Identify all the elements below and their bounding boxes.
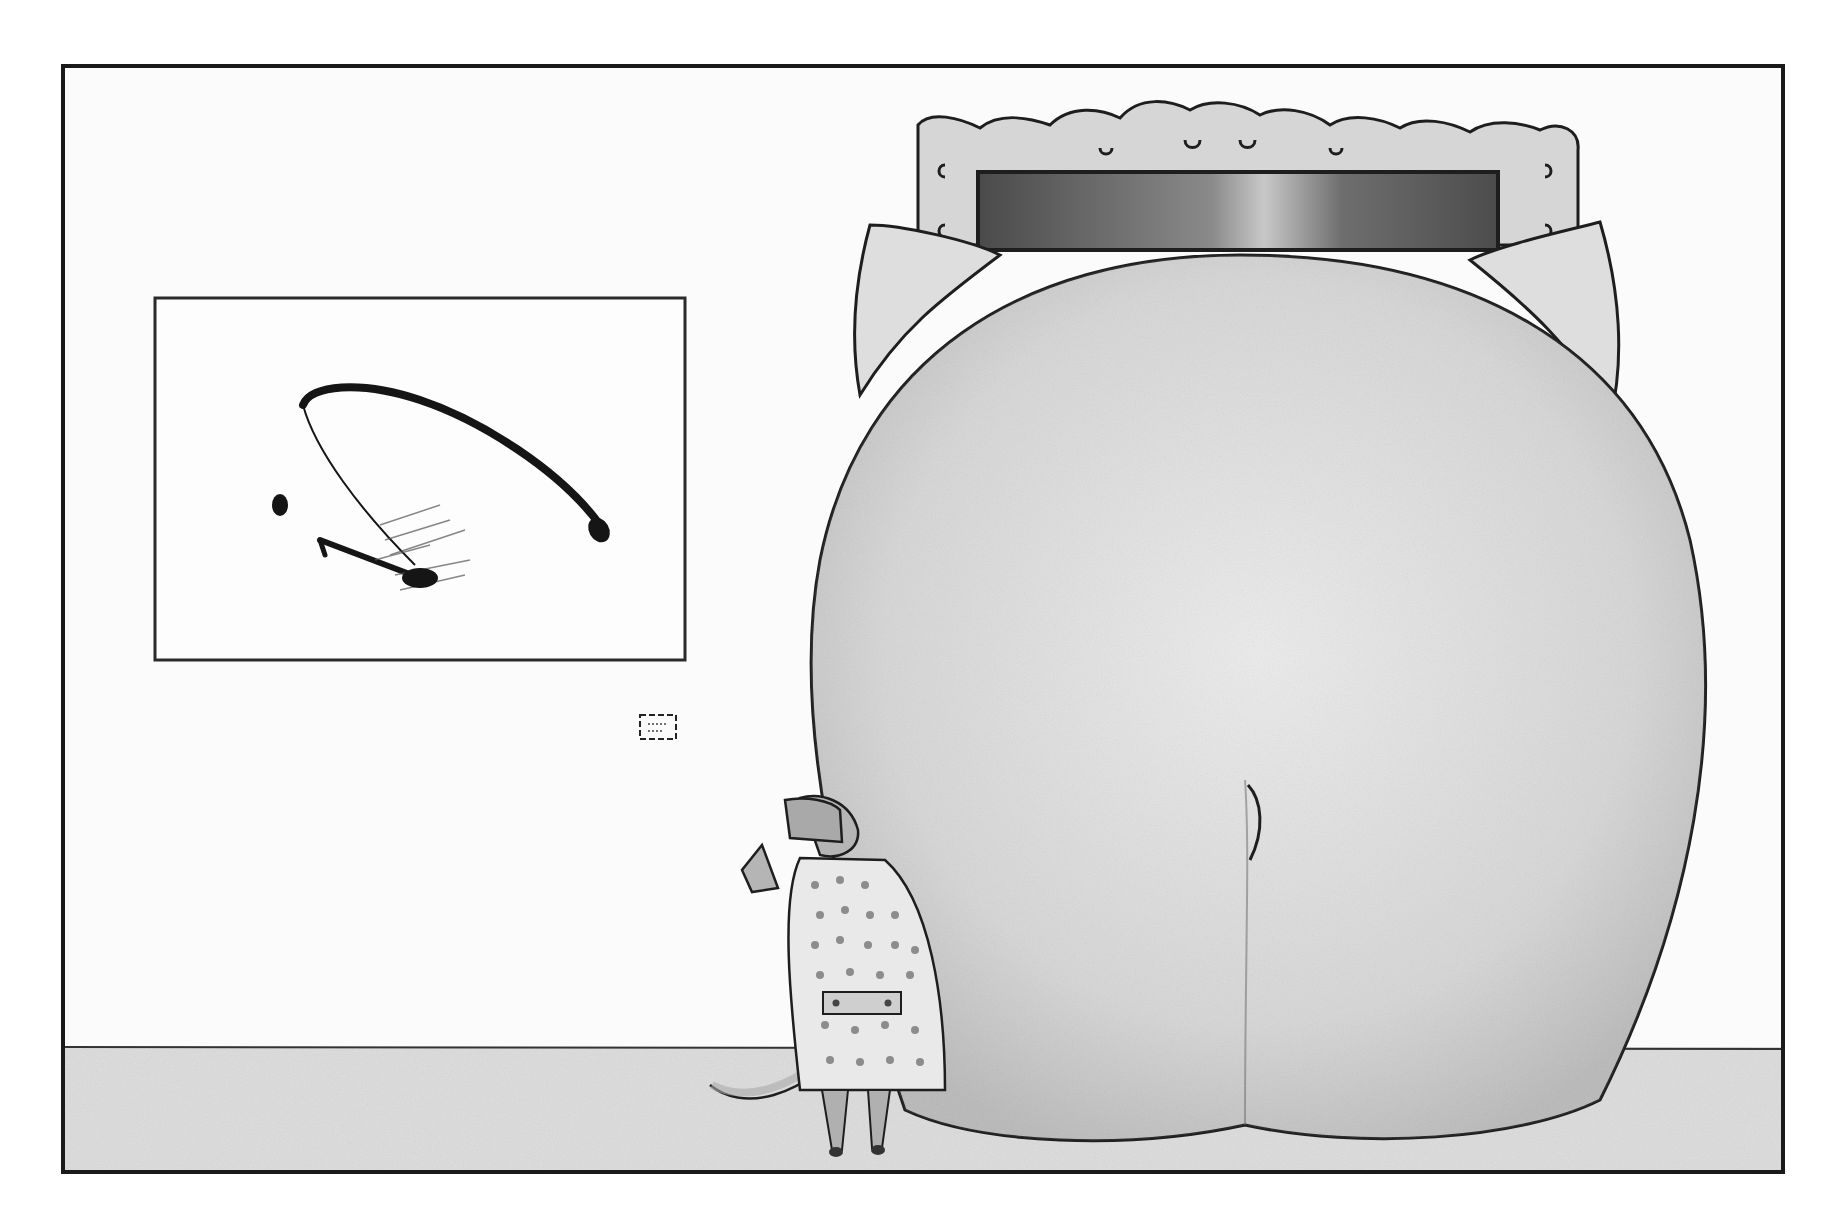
cartoon-scene [0, 0, 1828, 1222]
elephant-body [811, 255, 1705, 1141]
abstract-painting [155, 298, 685, 660]
